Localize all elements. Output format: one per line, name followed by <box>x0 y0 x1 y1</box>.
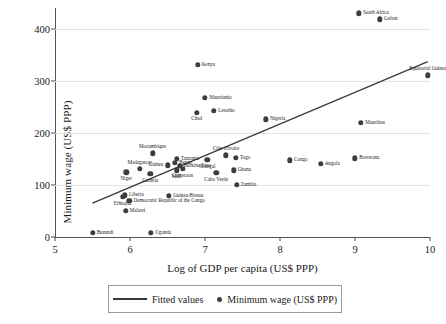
data-point-label: Kenya <box>202 62 215 67</box>
data-point-label: Gabon <box>384 17 398 22</box>
data-point-label: Nigeria <box>270 117 285 122</box>
x-axis-tick-mark <box>55 237 56 241</box>
data-point-label: Mali <box>172 174 182 179</box>
plot-area: 01002003004005678910South AfricaGabonEqu… <box>55 8 430 237</box>
x-axis-tick-label: 8 <box>277 244 282 255</box>
x-axis-tick-label: 7 <box>202 244 207 255</box>
data-point-label: Cabo Verde <box>204 177 228 182</box>
y-axis-tick-label: 100 <box>34 179 50 190</box>
data-point-label: Gambia <box>142 178 158 183</box>
data-point-label: Lesotho <box>218 109 234 114</box>
chart-legend: Fitted values Minimum wage (US$ PPP) <box>108 285 342 313</box>
data-point-label: Côte d'Ivoire <box>213 146 240 151</box>
data-point-label: Mauritania <box>209 95 231 100</box>
data-point-label: Mozambique <box>139 144 166 149</box>
x-axis-tick-mark <box>130 237 131 241</box>
data-point-label: Burundi <box>97 230 114 235</box>
line-marker-icon <box>113 298 147 299</box>
data-point-label: Zambia <box>241 182 257 187</box>
data-point-label: Madagascar <box>127 160 152 165</box>
x-axis-tick-label: 5 <box>52 244 57 255</box>
legend-label: Minimum wage (US$ PPP) <box>227 294 337 305</box>
x-axis-tick-mark <box>205 237 206 241</box>
x-axis-title: Log of GDP per capita (US$ PPP) <box>55 262 430 274</box>
data-point-label: Angola <box>325 161 340 166</box>
legend-label: Fitted values <box>152 294 203 305</box>
data-point-label: Burkina Faso <box>184 163 211 168</box>
x-axis-tick-label: 6 <box>127 244 132 255</box>
y-axis-tick-label: 400 <box>34 23 50 34</box>
x-axis-line <box>55 237 430 238</box>
y-axis-tick-label: 300 <box>34 75 50 86</box>
y-axis-tick-label: 200 <box>34 127 50 138</box>
legend-item-minimum-wage: Minimum wage (US$ PPP) <box>217 294 337 305</box>
dot-marker-icon <box>217 297 222 302</box>
x-axis-tick-mark <box>355 237 356 241</box>
data-point-label: Ghana <box>238 168 251 173</box>
y-axis-tick-label: 0 <box>45 232 50 243</box>
data-point-label: Malawi <box>130 208 146 213</box>
data-point-label: Mauritius <box>365 120 385 125</box>
data-point-label: Democratic Republic of the Congo <box>133 199 204 204</box>
data-point-label: Botswana <box>359 156 379 161</box>
data-point-label: Chad <box>191 116 202 121</box>
data-point-label: Togo <box>240 155 250 160</box>
data-point-label: Niger <box>120 176 132 181</box>
data-point-label: Equatorial Guinea <box>409 66 446 71</box>
legend-item-fitted-values: Fitted values <box>113 294 203 305</box>
data-point-label: Congo <box>294 158 308 163</box>
x-axis-tick-label: 9 <box>352 244 357 255</box>
x-axis-tick-mark <box>430 237 431 241</box>
data-point-label: Uganda <box>155 230 171 235</box>
x-axis-tick-label: 10 <box>425 244 436 255</box>
x-axis-tick-mark <box>280 237 281 241</box>
